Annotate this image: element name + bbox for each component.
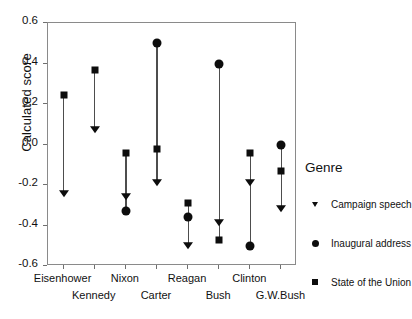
- legend-marker-slot: [305, 279, 325, 285]
- plot-area: [47, 22, 296, 265]
- y-axis-tick-label: -0.2: [18, 176, 38, 188]
- data-point-circle-icon: [215, 59, 224, 68]
- x-axis-label-bush: Bush: [206, 289, 231, 301]
- legend-item-campaign-speech: Campaign speech: [305, 191, 412, 217]
- x-axis-tick-mark: [63, 265, 64, 269]
- data-point-square-icon: [153, 145, 160, 152]
- x-axis-tick-mark: [218, 265, 219, 269]
- range-stem: [250, 153, 251, 246]
- triangle-down-icon: [312, 202, 318, 207]
- y-axis-tick-mark: [43, 265, 47, 266]
- legend-marker-slot: [305, 202, 325, 207]
- legend-item-inaugural-address: Inaugural address: [305, 230, 412, 256]
- x-axis-tick-mark: [156, 265, 157, 269]
- range-stem: [188, 203, 189, 246]
- y-axis-tick-label: 0.0: [22, 136, 38, 148]
- data-point-circle-icon: [152, 39, 161, 48]
- legend-label: Campaign speech: [331, 199, 412, 210]
- y-axis-tick-label: -0.6: [18, 257, 38, 269]
- x-axis-tick-mark: [280, 265, 281, 269]
- data-point-square-icon: [247, 149, 254, 156]
- data-point-square-icon: [185, 200, 192, 207]
- x-axis-label-nixon: Nixon: [111, 272, 139, 284]
- data-point-square-icon: [122, 149, 129, 156]
- square-icon: [312, 279, 318, 285]
- data-point-triangle-down-icon: [121, 193, 131, 200]
- data-point-circle-icon: [184, 213, 193, 222]
- data-point-triangle-down-icon: [245, 179, 255, 186]
- y-axis-tick-label: 0.2: [22, 95, 38, 107]
- x-axis-label-clinton: Clinton: [232, 272, 266, 284]
- data-point-triangle-down-icon: [214, 220, 224, 227]
- y-axis-tick-label: -0.4: [18, 217, 38, 229]
- data-point-circle-icon: [246, 241, 255, 250]
- data-point-circle-icon: [121, 207, 130, 216]
- legend-items: Campaign speechInaugural addressState of…: [305, 191, 412, 295]
- x-axis-label-g-w-bush: G.W.Bush: [256, 289, 306, 301]
- x-axis-tick-mark: [94, 265, 95, 269]
- range-stem: [63, 95, 64, 194]
- x-axis-tick-mark: [125, 265, 126, 269]
- data-point-triangle-down-icon: [59, 190, 69, 197]
- legend-label: Inaugural address: [331, 238, 411, 249]
- x-axis-label-eisenhower: Eisenhower: [34, 272, 91, 284]
- legend-title: Genre: [305, 160, 412, 175]
- x-axis-label-carter: Carter: [141, 289, 172, 301]
- data-point-circle-icon: [277, 140, 286, 149]
- data-point-triangle-down-icon: [183, 242, 193, 249]
- range-stem: [281, 145, 282, 210]
- data-point-triangle-down-icon: [276, 205, 286, 212]
- data-point-square-icon: [91, 66, 98, 73]
- data-point-triangle-down-icon: [152, 179, 162, 186]
- range-stem: [156, 43, 157, 183]
- data-point-triangle-down-icon: [90, 126, 100, 133]
- x-axis-label-kennedy: Kennedy: [72, 289, 115, 301]
- legend-marker-slot: [305, 240, 325, 247]
- legend: Genre Campaign speechInaugural addressSt…: [305, 160, 412, 308]
- legend-item-state-of-the-union: State of the Union: [305, 269, 412, 295]
- legend-label: State of the Union: [331, 277, 411, 288]
- y-axis-tick-label: 0.6: [22, 14, 38, 26]
- circle-icon: [312, 240, 319, 247]
- x-axis-tick-mark: [249, 265, 250, 269]
- data-point-square-icon: [60, 91, 67, 98]
- range-stem: [125, 153, 126, 212]
- range-stem: [219, 64, 220, 240]
- data-point-square-icon: [216, 236, 223, 243]
- y-axis-tick-label: 0.4: [22, 55, 38, 67]
- data-point-square-icon: [278, 167, 285, 174]
- range-stem: [94, 70, 95, 131]
- x-axis-tick-mark: [187, 265, 188, 269]
- x-axis-label-reagan: Reagan: [168, 272, 207, 284]
